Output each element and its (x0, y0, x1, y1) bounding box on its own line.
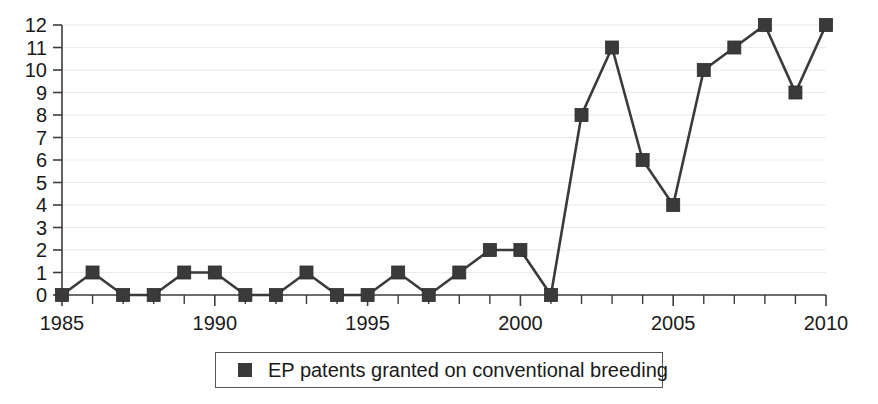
data-point-marker (820, 19, 833, 32)
x-tick-label: 1995 (345, 312, 390, 334)
data-point-marker (117, 289, 130, 302)
chart-legend: EP patents granted on conventional breed… (215, 352, 663, 388)
legend-label: EP patents granted on conventional breed… (268, 359, 668, 382)
data-point-marker (667, 199, 680, 212)
x-axis-tick-marks (62, 295, 826, 306)
data-point-marker (453, 266, 466, 279)
chart-container: 0123456789101112 19851990199520002005201… (0, 0, 878, 404)
data-point-marker (208, 266, 221, 279)
data-point-marker (300, 266, 313, 279)
data-point-marker (728, 41, 741, 54)
gridlines-group (62, 25, 826, 273)
data-point-marker (697, 64, 710, 77)
data-point-marker (636, 154, 649, 167)
legend-swatch-icon (238, 363, 252, 377)
data-point-marker (331, 289, 344, 302)
x-tick-label: 1990 (193, 312, 238, 334)
data-point-marker (56, 289, 69, 302)
data-point-marker (86, 266, 99, 279)
data-point-marker (147, 289, 160, 302)
line-chart-plot: 0123456789101112 19851990199520002005201… (0, 0, 878, 404)
data-point-marker (606, 41, 619, 54)
y-tick-label: 0 (36, 284, 47, 306)
x-axis-tick-labels: 198519901995200020052010 (40, 312, 849, 334)
y-tick-label: 2 (36, 239, 47, 261)
data-point-marker (361, 289, 374, 302)
data-point-marker (544, 289, 557, 302)
y-tick-label: 1 (36, 262, 47, 284)
data-point-marker (392, 266, 405, 279)
data-point-marker (483, 244, 496, 257)
x-tick-label: 2000 (498, 312, 543, 334)
x-tick-label: 2005 (651, 312, 696, 334)
y-axis-tick-labels: 0123456789101112 (25, 14, 47, 306)
y-tick-label: 9 (36, 82, 47, 104)
data-point-marker (178, 266, 191, 279)
x-tick-label: 2010 (804, 312, 849, 334)
y-tick-label: 3 (36, 217, 47, 239)
y-tick-label: 8 (36, 104, 47, 126)
x-tick-label: 1985 (40, 312, 85, 334)
y-tick-label: 4 (36, 194, 47, 216)
y-axis-tick-marks (53, 25, 62, 295)
data-point-marker (269, 289, 282, 302)
y-tick-label: 11 (26, 37, 47, 59)
data-point-marker (239, 289, 252, 302)
y-tick-label: 10 (25, 59, 47, 81)
data-point-marker (758, 19, 771, 32)
y-tick-label: 12 (25, 14, 47, 36)
y-tick-label: 6 (36, 149, 47, 171)
data-point-marker (422, 289, 435, 302)
data-point-marker (514, 244, 527, 257)
y-tick-label: 5 (36, 172, 47, 194)
y-tick-label: 7 (36, 127, 47, 149)
data-point-marker (789, 86, 802, 99)
data-point-marker (575, 109, 588, 122)
